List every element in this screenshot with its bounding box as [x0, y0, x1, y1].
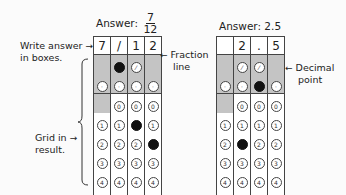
digit-cell: 2 — [234, 132, 251, 151]
digit-cell: 1 — [94, 113, 111, 132]
annotation-line: line — [160, 61, 190, 72]
left-answer-title: Answer: 7 12 — [96, 12, 157, 35]
decimal-cell: · — [128, 74, 145, 94]
digit-bubble-3[interactable]: 3 — [220, 158, 231, 169]
digit-cell: 3 — [234, 151, 251, 170]
decimal-point-bubble[interactable]: · — [131, 81, 142, 92]
digit-cell: 1 — [234, 113, 251, 132]
digit-bubble-3[interactable]: 3 — [114, 158, 125, 169]
answer-box[interactable] — [217, 37, 234, 55]
digit-cell: 2 — [268, 132, 285, 151]
digit-cell: 3 — [217, 151, 234, 170]
digit-bubble-1[interactable]: 1 — [237, 120, 248, 131]
digit-bubble-1[interactable]: 1 — [220, 120, 231, 131]
decimal-point-bubble[interactable]: · — [114, 81, 125, 92]
digit-cell: 4 — [217, 170, 234, 189]
digit-cell: 4 — [128, 170, 145, 189]
digit-bubble-2[interactable]: 2 — [220, 139, 231, 150]
digit-bubble-0[interactable]: 0 — [254, 101, 265, 112]
decimal-point-bubble[interactable]: · — [220, 81, 231, 92]
annotation-line: point — [285, 74, 322, 85]
digit-cell: 3 — [251, 151, 268, 170]
digit-bubble-1[interactable]: 1 — [114, 120, 125, 131]
digit-bubble-4[interactable]: 4 — [114, 177, 125, 188]
slash-cell — [268, 55, 285, 75]
digit-cell: 5 — [94, 189, 111, 195]
digit-bubble-1[interactable]: 1 — [254, 120, 265, 131]
digit-bubble-1[interactable]: 1 — [97, 120, 108, 131]
digit-cell: 3 — [111, 151, 128, 170]
digit-bubble-2[interactable]: 2 — [271, 139, 282, 150]
digit-bubble-4[interactable]: 4 — [220, 177, 231, 188]
digit-bubble-4[interactable]: 4 — [271, 177, 282, 188]
decimal-cell: · — [268, 74, 285, 94]
slash-cell: ⁄ — [128, 55, 145, 75]
digit-bubble-4[interactable]: 4 — [148, 177, 159, 188]
answer-box[interactable]: / — [111, 37, 128, 55]
fraction-slash-bubble[interactable]: ⁄ — [131, 62, 142, 73]
digit-bubble-3[interactable]: 3 — [148, 158, 159, 169]
digit-bubble-3[interactable]: 3 — [237, 158, 248, 169]
fraction-slash-bubble[interactable]: ⁄ — [254, 62, 265, 73]
digit-cell: 4 — [234, 170, 251, 189]
digit-cell — [217, 94, 234, 114]
digit-cell: 2 — [128, 132, 145, 151]
slash-cell — [217, 55, 234, 75]
answer-box[interactable]: 5 — [268, 37, 285, 55]
decimal-point-bubble[interactable]: · — [271, 81, 282, 92]
digit-bubble-4[interactable]: 4 — [237, 177, 248, 188]
digit-bubble-1[interactable]: 1 — [131, 120, 142, 131]
digit-bubble-3[interactable]: 3 — [131, 158, 142, 169]
digit-bubble-1[interactable]: 1 — [148, 120, 159, 131]
digit-bubble-4[interactable]: 4 — [97, 177, 108, 188]
grid-in-annotation: Grid in → result. — [35, 132, 77, 155]
digit-bubble-3[interactable]: 3 — [97, 158, 108, 169]
digit-bubble-2[interactable]: 2 — [97, 139, 108, 150]
digit-cell: 5 — [251, 189, 268, 195]
annotation-line: result. — [35, 144, 65, 155]
digit-bubble-3[interactable]: 3 — [271, 158, 282, 169]
digit-bubble-2[interactable]: 2 — [114, 139, 125, 150]
slash-cell: ⁄ — [251, 55, 268, 75]
digit-cell: 4 — [145, 170, 162, 189]
digit-cell: 4 — [268, 170, 285, 189]
digit-bubble-4[interactable]: 4 — [131, 177, 142, 188]
digit-cell: 3 — [94, 151, 111, 170]
digit-bubble-0[interactable]: 0 — [131, 101, 142, 112]
digit-bubble-2[interactable]: 2 — [254, 139, 265, 150]
digit-bubble-2[interactable]: 2 — [237, 139, 248, 150]
decimal-point-bubble[interactable]: · — [237, 81, 248, 92]
decimal-point-annotation: ← Decimal point — [285, 62, 334, 85]
answer-box[interactable]: . — [251, 37, 268, 55]
digit-bubble-4[interactable]: 4 — [254, 177, 265, 188]
answer-box[interactable]: 1 — [128, 37, 145, 55]
digit-bubble-2[interactable]: 2 — [148, 139, 159, 150]
digit-bubble-0[interactable]: 0 — [237, 101, 248, 112]
annotation-line: Fraction — [171, 49, 209, 60]
decimal-cell: · — [217, 74, 234, 94]
decimal-point-bubble[interactable]: · — [148, 81, 159, 92]
digit-cell: 0 — [111, 94, 128, 114]
digit-bubble-1[interactable]: 1 — [271, 120, 282, 131]
decimal-cell: · — [234, 74, 251, 94]
annotation-line: Decimal — [296, 62, 335, 73]
answer-label: Answer: — [96, 17, 138, 29]
digit-cell: 4 — [251, 170, 268, 189]
decimal-point-bubble[interactable]: · — [97, 81, 108, 92]
digit-bubble-0[interactable]: 0 — [271, 101, 282, 112]
decimal-point-bubble[interactable]: · — [254, 81, 265, 92]
answer-box[interactable]: 2 — [145, 37, 162, 55]
digit-cell: 1 — [128, 113, 145, 132]
annotation-line: in boxes. — [20, 52, 62, 63]
answer-box[interactable]: 2 — [234, 37, 251, 55]
fraction-slash-bubble[interactable]: ⁄ — [237, 62, 248, 73]
digit-bubble-3[interactable]: 3 — [254, 158, 265, 169]
right-answer-title: Answer: 2.5 — [219, 20, 281, 32]
digit-bubble-0[interactable]: 0 — [114, 101, 125, 112]
digit-bubble-2[interactable]: 2 — [131, 139, 142, 150]
digit-bubble-0[interactable]: 0 — [148, 101, 159, 112]
fraction-slash-bubble[interactable]: ⁄ — [114, 62, 125, 73]
slash-cell: ⁄ — [111, 55, 128, 75]
answer-box[interactable]: 7 — [94, 37, 111, 55]
digit-cell — [94, 94, 111, 114]
